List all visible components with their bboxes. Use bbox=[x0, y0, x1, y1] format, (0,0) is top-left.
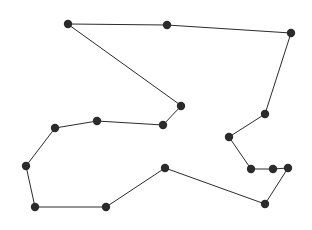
polygon-vertex-dot bbox=[64, 20, 72, 28]
polygon-vertex-dot bbox=[102, 203, 110, 211]
polygon-vertex-dot bbox=[163, 21, 171, 29]
polygon-vertex-dot bbox=[247, 165, 255, 173]
polygon-vertex-dot bbox=[261, 110, 269, 118]
polygon-vertex-dot bbox=[51, 124, 59, 132]
polygon-vertex-dot bbox=[177, 102, 185, 110]
polygon-figure bbox=[0, 0, 312, 230]
polygon-vertex-dot bbox=[161, 164, 169, 172]
polygon-vertex-dot bbox=[284, 164, 292, 172]
polygon-vertex-dot bbox=[261, 200, 269, 208]
polygon-vertex-dot bbox=[287, 29, 295, 37]
polygon-vertex-dot bbox=[31, 203, 39, 211]
polygon-vertex-dot bbox=[93, 117, 101, 125]
polygon-vertex-dot bbox=[22, 162, 30, 170]
polygon-vertex-dot bbox=[225, 133, 233, 141]
figure-canvas bbox=[0, 0, 312, 230]
polygon-vertex-dot bbox=[159, 121, 167, 129]
polygon-vertex-dot bbox=[269, 165, 277, 173]
